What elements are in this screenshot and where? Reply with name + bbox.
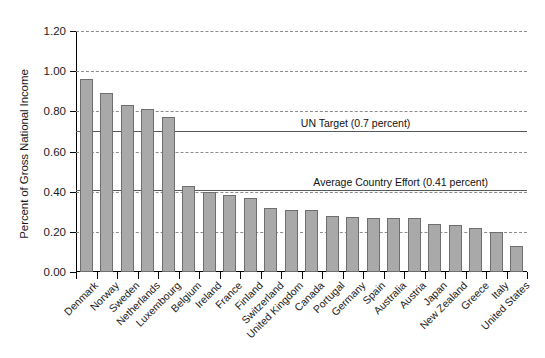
x-tick [384,272,385,279]
x-tick [527,272,528,279]
y-axis-tick-label: 0.40 [44,186,66,198]
y-tick [70,232,76,233]
x-tick [158,272,159,279]
bar [490,232,503,272]
y-tick [70,152,76,153]
x-tick [322,272,323,279]
x-tick [445,272,446,279]
bar [121,105,134,272]
bar [469,228,482,272]
y-axis-tick-label: 0.20 [44,226,66,238]
x-axis-labels: DenmarkNorwaySwedenNetherlandsLuxembourg… [0,279,545,358]
x-tick [97,272,98,279]
bar-chart: Percent of Gross National Income UN Targ… [0,0,545,358]
bar [408,218,421,272]
bar [80,79,93,272]
bar [305,210,318,272]
x-tick [76,272,77,279]
x-tick [507,272,508,279]
bar [100,93,113,272]
x-tick [220,272,221,279]
y-axis-tick-label: 1.00 [44,65,66,77]
x-tick [425,272,426,279]
bar [428,224,441,272]
bar [449,225,462,272]
y-axis-tick-label: 1.20 [44,25,66,37]
x-tick [199,272,200,279]
bar [182,186,195,272]
plot-area: UN Target (0.7 percent)Average Country E… [76,31,527,272]
y-axis-title: Percent of Gross National Income [18,24,30,284]
bar [264,208,277,272]
bar [285,210,298,272]
y-tick [70,71,76,72]
x-tick [486,272,487,279]
y-axis-tick-label: 0.80 [44,105,66,117]
bar [510,246,523,272]
bar [244,198,257,272]
x-tick [343,272,344,279]
bar [203,192,216,272]
x-tick [138,272,139,279]
bar [367,218,380,272]
x-tick [281,272,282,279]
x-tick [466,272,467,279]
bar [346,217,359,272]
bar [223,195,236,272]
x-tick [117,272,118,279]
y-axis-tick-label: 0.60 [44,146,66,158]
x-tick [240,272,241,279]
x-tick [404,272,405,279]
bar [162,117,175,272]
bar [141,109,154,272]
x-tick [179,272,180,279]
y-tick [70,111,76,112]
x-tick [302,272,303,279]
y-tick [70,31,76,32]
bar-series [76,31,527,272]
bar [387,218,400,272]
x-tick [261,272,262,279]
bar [326,216,339,272]
y-axis-tick-label: 0.00 [44,266,66,278]
y-tick [70,192,76,193]
x-tick [363,272,364,279]
